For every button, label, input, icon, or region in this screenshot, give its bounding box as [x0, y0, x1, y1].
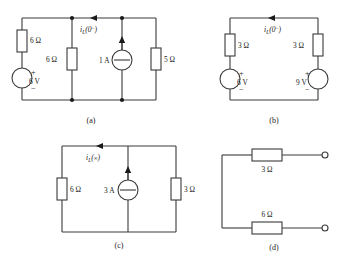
node-dot	[70, 16, 74, 20]
source-3a-label: 3 A	[104, 186, 115, 195]
resistor-3ohm-top	[252, 149, 282, 161]
resistor-6ohm-mid-label: 6 Ω	[46, 55, 58, 64]
source-1a-label: 1 A	[99, 56, 110, 65]
resistor-3ohm-c	[171, 178, 181, 200]
resistor-6ohm-bottom	[252, 222, 282, 234]
caption-b: (b)	[269, 116, 279, 125]
source-9v-plus: +	[305, 69, 310, 78]
circuit-figure-set: 6 Ω + 6 V − 6 Ω 1 A 5 Ω iL(0−) (a)	[0, 0, 358, 267]
resistor-6ohm-mid	[67, 48, 77, 70]
source-6v-plus: +	[31, 68, 36, 77]
current-label-a: iL(0−)	[80, 25, 98, 35]
current-arrow-c-icon	[96, 143, 103, 149]
node-dot	[70, 98, 74, 102]
subfigure-d: 3 Ω 6 Ω (d)	[222, 149, 328, 252]
resistor-6ohm-bottom-label: 6 Ω	[261, 210, 273, 219]
resistor-5ohm	[151, 48, 161, 70]
terminal-bottom	[322, 225, 328, 231]
resistor-6ohm-left-label: 6 Ω	[30, 36, 42, 45]
source-6v-plus-b: +	[239, 69, 244, 78]
resistor-3ohm-left	[225, 34, 235, 56]
node-dot	[120, 98, 124, 102]
source-9v-minus: −	[305, 85, 310, 94]
subfigure-c: 6 Ω 3 A 3 Ω iL(∞) (c)	[57, 143, 196, 250]
source-6v-minus-b: −	[239, 85, 244, 94]
current-label-c: iL(∞)	[86, 153, 101, 163]
source-9v-symbol	[308, 69, 328, 89]
resistor-3ohm-top-label: 3 Ω	[261, 165, 273, 174]
source-1a-arrow-icon	[119, 36, 125, 43]
terminal-top	[322, 152, 328, 158]
resistor-3ohm-right-label: 3 Ω	[293, 41, 305, 50]
current-arrow-b-icon	[268, 15, 275, 21]
current-label-b: iL(0−)	[264, 25, 282, 35]
subfigure-a: 6 Ω + 6 V − 6 Ω 1 A 5 Ω iL(0−) (a)	[12, 15, 176, 125]
resistor-6ohm-c-label: 6 Ω	[70, 185, 82, 194]
current-arrow-a-icon	[90, 15, 97, 21]
resistor-5ohm-label: 5 Ω	[164, 55, 176, 64]
caption-a: (a)	[87, 116, 96, 125]
source-6v-minus: −	[31, 84, 36, 93]
resistor-3ohm-c-label: 3 Ω	[184, 185, 196, 194]
caption-c: (c)	[115, 241, 124, 250]
resistor-3ohm-right	[313, 34, 323, 56]
subfigure-b: 3 Ω + 6 V − 3 Ω + 9 V − iL(0−) (b)	[220, 15, 328, 125]
resistor-6ohm-c	[57, 178, 67, 200]
resistor-3ohm-left-label: 3 Ω	[238, 41, 250, 50]
resistor-6ohm-left	[17, 30, 27, 52]
node-dot	[120, 16, 124, 20]
source-3a-arrow-icon	[125, 166, 131, 173]
caption-d: (d)	[269, 243, 279, 252]
